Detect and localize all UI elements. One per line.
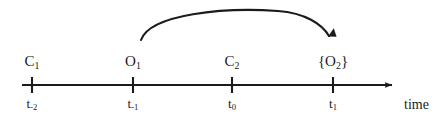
event-label-o2-suffix: }: [341, 53, 348, 69]
time-label-t-zero-sub: 0: [232, 102, 236, 112]
time-label-t-minus-2: t-2: [27, 97, 38, 112]
event-label-o1: O1: [125, 54, 141, 71]
time-label-t-minus-2-sub: -2: [30, 102, 37, 112]
time-label-t-minus-1: t-1: [128, 97, 139, 112]
curved-arrow-path: [141, 10, 329, 40]
event-label-c2: C2: [225, 54, 240, 71]
diagram-vector-layer: [0, 0, 439, 120]
event-label-c2-base: C: [225, 53, 235, 69]
timeline-diagram: C1 O1 C2 {O2} t-2 t-1 t0 t1 time: [0, 0, 439, 120]
event-label-c2-sub: 2: [235, 60, 240, 71]
time-label-t-one: t1: [329, 97, 337, 112]
axis-name-time: time: [404, 98, 429, 112]
event-label-o2-set: {O2}: [318, 54, 348, 71]
time-label-t-minus-1-sub: -1: [131, 102, 138, 112]
event-label-o2-base: {O: [318, 53, 336, 69]
event-label-o1-base: O: [125, 53, 136, 69]
event-label-c1-base: C: [25, 53, 35, 69]
time-label-t-zero: t0: [228, 97, 236, 112]
event-label-c1-sub: 1: [35, 60, 40, 71]
event-label-c1: C1: [25, 54, 40, 71]
event-label-o1-sub: 1: [136, 60, 141, 71]
time-label-t-one-sub: 1: [333, 102, 337, 112]
